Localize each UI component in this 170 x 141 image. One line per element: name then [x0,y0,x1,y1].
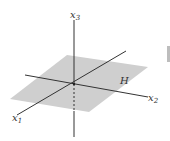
side-bar-marker [167,46,170,62]
label-x2: x2 [148,92,159,105]
origin-point [73,83,75,85]
label-plane-h: H [119,75,129,86]
diagram-3d-plane: x3 H x2 x1 [0,0,170,141]
label-x1: x1 [12,112,22,125]
label-x3: x3 [70,9,81,22]
